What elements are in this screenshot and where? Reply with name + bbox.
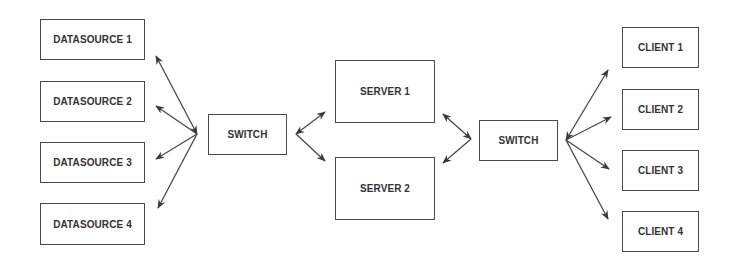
datasource-1-box: DATASOURCE 1	[40, 19, 145, 60]
switch-left-label: SWITCH	[227, 129, 267, 140]
client-2-label: CLIENT 2	[638, 104, 683, 115]
arrow-switch-server2	[296, 134, 325, 161]
client-1-box: CLIENT 1	[622, 27, 699, 68]
server-2-label: SERVER 2	[360, 183, 410, 194]
switch-left-box: SWITCH	[208, 114, 287, 155]
server-1-label: SERVER 1	[360, 86, 410, 97]
datasource-2-box: DATASOURCE 2	[40, 81, 145, 122]
datasource-3-label: DATASOURCE 3	[53, 157, 132, 168]
arrow-datasource2-switch	[156, 106, 197, 134]
client-1-label: CLIENT 1	[638, 42, 683, 53]
network-diagram: DATASOURCE 1 DATASOURCE 2 DATASOURCE 3 D…	[0, 0, 736, 269]
datasource-2-label: DATASOURCE 2	[53, 96, 132, 107]
datasource-3-box: DATASOURCE 3	[40, 142, 145, 183]
datasource-1-label: DATASOURCE 1	[53, 34, 132, 45]
client-3-box: CLIENT 3	[622, 150, 699, 191]
client-3-label: CLIENT 3	[638, 165, 683, 176]
arrow-server1-switch	[443, 114, 471, 139]
arrow-switch-server1	[296, 112, 325, 134]
arrow-server2-switch	[443, 139, 471, 163]
arrow-datasource4-switch	[158, 134, 197, 208]
arrow-datasource1-switch	[156, 56, 197, 134]
server-1-box: SERVER 1	[335, 60, 435, 123]
switch-right-box: SWITCH	[479, 120, 558, 161]
switch-right-label: SWITCH	[498, 135, 538, 146]
client-4-label: CLIENT 4	[638, 226, 683, 237]
client-2-box: CLIENT 2	[622, 89, 699, 130]
arrow-switch-client3	[566, 140, 609, 169]
arrow-switch-client4	[566, 140, 608, 219]
server-2-box: SERVER 2	[335, 157, 435, 220]
datasource-4-label: DATASOURCE 4	[53, 219, 132, 230]
client-4-box: CLIENT 4	[622, 211, 699, 252]
datasource-4-box: DATASOURCE 4	[40, 203, 145, 245]
